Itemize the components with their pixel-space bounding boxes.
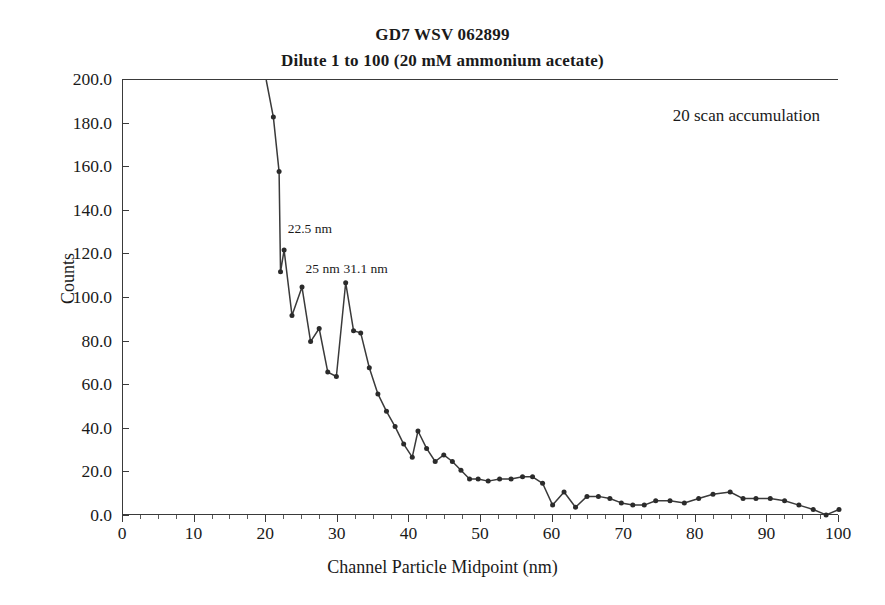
y-tick-label: 140.0 — [0, 199, 112, 220]
x-tick-mark — [265, 515, 266, 522]
y-tick-label: 60.0 — [0, 374, 112, 395]
data-series-canvas — [123, 80, 839, 516]
data-point — [607, 496, 612, 501]
data-point — [467, 476, 472, 481]
y-tick-label: 100.0 — [0, 287, 112, 308]
peak-label: 22.5 nm — [288, 221, 332, 237]
data-point — [509, 476, 514, 481]
data-point — [768, 496, 773, 501]
data-point — [410, 455, 415, 460]
data-point — [486, 479, 491, 484]
data-point — [562, 490, 567, 495]
data-point — [358, 330, 363, 335]
y-tick-label: 120.0 — [0, 243, 112, 264]
series-line — [266, 80, 839, 515]
x-tick-label: 40 — [378, 523, 438, 544]
x-tick-mark — [194, 515, 195, 522]
data-point — [796, 503, 801, 508]
x-tick-label: 100 — [808, 523, 868, 544]
y-axis-title: Counts — [58, 199, 79, 359]
x-tick-label: 20 — [235, 523, 295, 544]
x-tick-label: 60 — [522, 523, 582, 544]
peak-label: 25 nm — [306, 261, 340, 277]
x-tick-mark — [695, 515, 696, 522]
data-point — [401, 442, 406, 447]
y-tick-label: 80.0 — [0, 330, 112, 351]
data-point — [668, 498, 673, 503]
data-point — [433, 459, 438, 464]
x-tick-mark — [838, 515, 839, 522]
data-point — [317, 326, 322, 331]
data-point — [476, 476, 481, 481]
x-tick-label: 90 — [736, 523, 796, 544]
data-point — [753, 496, 758, 501]
data-point — [573, 505, 578, 510]
x-tick-label: 30 — [307, 523, 367, 544]
series-markers — [271, 115, 842, 518]
x-tick-mark — [552, 515, 553, 522]
x-axis-title: Channel Particle Midpoint (nm) — [0, 557, 885, 578]
data-point — [375, 391, 380, 396]
data-point — [367, 365, 372, 370]
data-point — [530, 474, 535, 479]
x-tick-label: 70 — [593, 523, 653, 544]
data-point — [300, 285, 305, 290]
data-point — [782, 498, 787, 503]
data-point — [289, 313, 294, 318]
data-point — [811, 507, 816, 512]
data-point — [741, 496, 746, 501]
data-point — [351, 328, 356, 333]
data-point — [450, 459, 455, 464]
plot-area: 20 scan accumulation 22.5 nm25 nm31.1 nm — [122, 79, 838, 515]
data-point — [696, 496, 701, 501]
data-point — [325, 370, 330, 375]
data-point — [728, 490, 733, 495]
data-point — [458, 468, 463, 473]
data-point — [497, 476, 502, 481]
data-point — [278, 269, 283, 274]
y-tick-label: 200.0 — [0, 69, 112, 90]
x-tick-mark — [408, 515, 409, 522]
data-point — [550, 503, 555, 508]
x-tick-mark — [122, 515, 123, 522]
x-tick-label: 80 — [665, 523, 725, 544]
data-point — [710, 492, 715, 497]
data-point — [824, 512, 829, 517]
data-point — [277, 169, 282, 174]
data-point — [540, 481, 545, 486]
x-tick-label: 0 — [92, 523, 152, 544]
chart-figure: GD7 WSV 062899 Dilute 1 to 100 (20 mM am… — [0, 0, 885, 605]
x-tick-label: 50 — [450, 523, 510, 544]
data-point — [384, 409, 389, 414]
data-point — [642, 503, 647, 508]
data-point — [424, 446, 429, 451]
x-tick-mark — [623, 515, 624, 522]
peak-label: 31.1 nm — [344, 261, 388, 277]
data-point — [334, 374, 339, 379]
data-point — [682, 500, 687, 505]
data-point — [584, 494, 589, 499]
data-point — [393, 424, 398, 429]
data-point — [596, 494, 601, 499]
data-point — [343, 280, 348, 285]
y-tick-label: 20.0 — [0, 461, 112, 482]
data-point — [282, 248, 287, 253]
x-tick-mark — [337, 515, 338, 522]
x-tick-mark — [480, 515, 481, 522]
y-tick-label: 160.0 — [0, 156, 112, 177]
y-tick-label: 40.0 — [0, 417, 112, 438]
data-point — [619, 500, 624, 505]
data-point — [520, 474, 525, 479]
x-tick-label: 10 — [164, 523, 224, 544]
data-point — [630, 503, 635, 508]
x-tick-mark — [766, 515, 767, 522]
data-point — [441, 452, 446, 457]
data-point — [653, 498, 658, 503]
data-point — [415, 428, 420, 433]
y-tick-label: 180.0 — [0, 112, 112, 133]
data-point — [308, 339, 313, 344]
data-point — [837, 507, 842, 512]
data-point — [271, 115, 276, 120]
